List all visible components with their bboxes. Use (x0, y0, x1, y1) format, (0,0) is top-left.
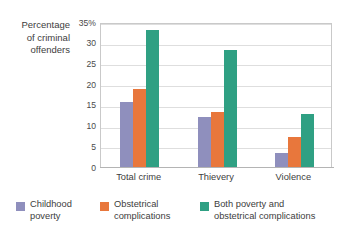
y-axis-tick-label: 30 (70, 39, 96, 48)
bar-group-violence (275, 24, 314, 167)
legend-swatch-icon (100, 202, 109, 211)
chart-legend: ChildhoodpovertyObstetricalcomplications… (0, 198, 340, 240)
legend-label-line: Both poverty and (214, 198, 315, 210)
legend-label-line: complications (114, 210, 170, 222)
y-axis-tick-label: 35% (70, 19, 96, 28)
bar (146, 30, 159, 167)
legend-label-line: Obstetrical (114, 198, 170, 210)
y-axis-tick-label: 25 (70, 60, 96, 69)
bar (211, 112, 224, 167)
legend-label-line: Childhood (30, 198, 72, 210)
bar (301, 114, 314, 167)
legend-label: Obstetricalcomplications (114, 198, 170, 223)
legend-label-line: obstetrical complications (214, 210, 315, 222)
x-axis-tick-label: Violence (248, 172, 338, 182)
y-axis-tick-label: 15 (70, 101, 96, 110)
legend-label: Both poverty andobstetrical complication… (214, 198, 315, 223)
bar-group-total-crime (120, 24, 159, 167)
y-axis-title-line-1: Percentage (2, 19, 70, 32)
bar (275, 153, 288, 167)
x-axis-line (100, 167, 334, 168)
y-axis-title-line-3: offenders (2, 44, 70, 57)
bar (120, 102, 133, 167)
bar-group-thievery (198, 24, 237, 167)
bar-chart-figure: Percentage of criminal offenders 35%3025… (0, 0, 340, 246)
legend-label: Childhoodpoverty (30, 198, 72, 223)
legend-swatch-icon (16, 202, 25, 211)
bar (224, 50, 237, 167)
bar (198, 117, 211, 167)
y-axis-tick-label: 5 (70, 143, 96, 152)
plot-area (100, 23, 332, 168)
bar (133, 89, 146, 167)
bar (288, 137, 301, 167)
legend-label-line: poverty (30, 210, 72, 222)
y-axis-tick-label: 20 (70, 81, 96, 90)
y-axis-tick-label: 10 (70, 122, 96, 131)
y-axis-title-line-2: of criminal (2, 32, 70, 45)
legend-swatch-icon (200, 202, 209, 211)
y-axis-title: Percentage of criminal offenders (2, 19, 70, 57)
y-axis-tick-label: 0 (70, 164, 96, 173)
